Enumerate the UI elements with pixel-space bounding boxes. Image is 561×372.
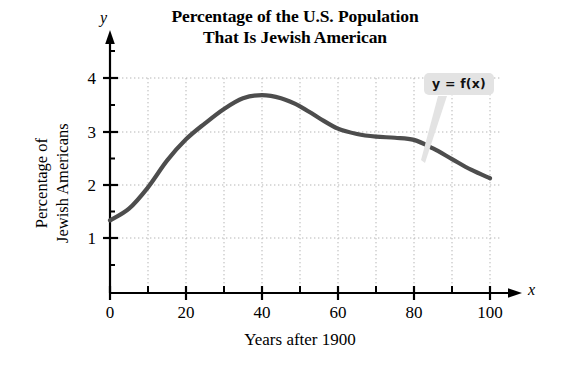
x-tick-label-80: 80 xyxy=(394,303,434,323)
x-axis-title: Years after 1900 xyxy=(150,330,450,350)
y-tick-label-3: 3 xyxy=(74,123,96,143)
y-axis-title: Percentage of Jewish Americans xyxy=(31,88,73,278)
x-tick-label-100: 100 xyxy=(470,303,510,323)
function-curve xyxy=(110,95,490,220)
x-tick-label-0: 0 xyxy=(90,303,130,323)
chart-title: Percentage of the U.S. Population That I… xyxy=(130,6,460,49)
x-tick-label-60: 60 xyxy=(318,303,358,323)
x-tick-label-40: 40 xyxy=(242,303,282,323)
y-tick-label-4: 4 xyxy=(74,69,96,89)
y-axis xyxy=(105,30,115,293)
y-tick-label-1: 1 xyxy=(74,229,96,249)
curve-label-callout: y = f(x) xyxy=(424,73,494,95)
y-axis-title-line-1: Percentage of xyxy=(31,88,52,278)
y-axis-title-line-2: Jewish Americans xyxy=(52,88,73,278)
x-tick-label-20: 20 xyxy=(166,303,206,323)
y-tick-label-2: 2 xyxy=(74,176,96,196)
x-axis-variable-label: x xyxy=(528,282,535,298)
chart-title-line-1: Percentage of the U.S. Population xyxy=(130,6,460,27)
x-axis xyxy=(110,288,522,298)
chart-figure: Percentage of the U.S. Population That I… xyxy=(0,0,561,372)
chart-title-line-2: That Is Jewish American xyxy=(130,27,460,48)
y-axis-variable-label: y xyxy=(100,10,107,26)
